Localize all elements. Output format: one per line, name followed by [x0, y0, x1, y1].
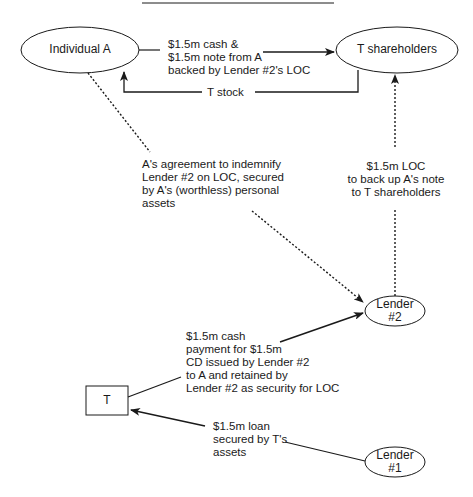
loc-label: $1.5m LOC to back up A's note to T share…	[338, 160, 454, 199]
t-shareholders-label: T shareholders	[336, 43, 458, 56]
loc-line1: $1.5m LOC	[338, 160, 454, 173]
cash-note-line2: $1.5m note from A	[168, 51, 310, 64]
cd-payment-line3: CD issued by Lender #2	[186, 356, 339, 369]
cd-payment-label: $1.5m cash payment for $1.5m CD issued b…	[186, 330, 339, 395]
lender2-label-line2: #2	[365, 311, 425, 324]
t-stock-label: T stock	[207, 86, 244, 99]
loan-label: $1.5m loan secured by T's assets	[213, 420, 287, 459]
cash-note-label: $1.5m cash & $1.5m note from A backed by…	[168, 38, 310, 77]
loan-line3: assets	[213, 446, 287, 459]
cd-payment-line1: $1.5m cash	[186, 330, 339, 343]
cash-note-line1: $1.5m cash &	[168, 38, 310, 51]
loan-edge-right	[285, 442, 365, 461]
lender1-label-line2: #1	[365, 462, 425, 475]
cd-payment-line4: to A and retained by	[186, 369, 339, 382]
indemnify-edge-bottom	[252, 211, 363, 302]
t-label: T	[86, 394, 128, 407]
cd-payment-line2: payment for $1.5m	[186, 343, 339, 356]
loan-line2: secured by T's	[213, 433, 287, 446]
indemnify-edge-top	[88, 73, 150, 152]
loan-line1: $1.5m loan	[213, 420, 287, 433]
individual-a-label: Individual A	[21, 43, 139, 56]
cash-note-line3: backed by Lender #2's LOC	[168, 64, 310, 77]
cd-payment-line5: Lender #2 as security for LOC	[186, 382, 339, 395]
loan-edge-left	[131, 410, 205, 426]
indemnify-line4: assets	[142, 197, 284, 210]
loc-line3: to T shareholders	[338, 186, 454, 199]
lender1-label: Lender #1	[365, 449, 425, 475]
indemnify-line2: Lender #2 on LOC, secured	[142, 171, 284, 184]
loc-line2: to back up A's note	[338, 173, 454, 186]
indemnify-line3: by A's (worthless) personal	[142, 184, 284, 197]
indemnify-line1: A's agreement to indemnify	[142, 158, 284, 171]
lender2-label: Lender #2	[365, 298, 425, 324]
cd-payment-edge-left	[128, 377, 181, 397]
indemnify-label: A's agreement to indemnify Lender #2 on …	[142, 158, 284, 210]
